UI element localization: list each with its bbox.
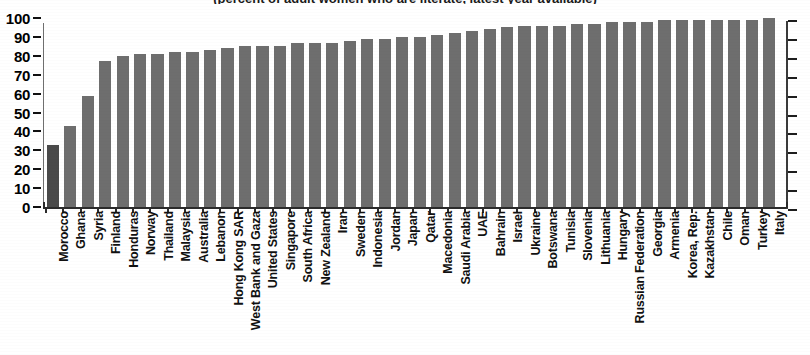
right-axis-tick xyxy=(788,115,797,117)
bar xyxy=(414,37,426,207)
y-tick-mark xyxy=(33,112,41,114)
bar xyxy=(763,18,775,207)
bar xyxy=(466,31,478,207)
bar xyxy=(693,20,705,207)
y-tick-label: 40 xyxy=(14,124,30,139)
x-tick-label: Singapore xyxy=(285,211,298,270)
bar xyxy=(291,43,303,207)
bar xyxy=(501,27,513,207)
y-axis-labels: 0102030405060708090100 xyxy=(0,18,30,207)
bar xyxy=(676,20,688,207)
y-tick-label: 30 xyxy=(14,143,30,158)
y-tick-label: 20 xyxy=(14,162,30,177)
x-tick-label: Iran xyxy=(337,211,350,233)
x-tick-label: Macedonia xyxy=(442,211,455,274)
right-axis-tick xyxy=(788,58,797,60)
x-tick-label: Morocco xyxy=(58,211,71,262)
bar xyxy=(151,54,163,207)
bar xyxy=(641,22,653,207)
bar xyxy=(361,39,373,207)
bar xyxy=(99,61,111,207)
right-axis-ticks xyxy=(779,18,793,210)
bar xyxy=(186,52,198,207)
x-tick-label: Ukraine xyxy=(530,211,543,255)
bar xyxy=(431,35,443,207)
y-tick-mark xyxy=(33,187,41,189)
x-axis-category-labels: MoroccoGhanaSyriaFinlandHondurasNorwayTh… xyxy=(44,211,784,355)
right-axis-tick xyxy=(788,133,797,135)
x-tick-label: Italy xyxy=(774,211,787,235)
x-tick-label: Ghana xyxy=(75,211,88,249)
right-axis-tick xyxy=(788,190,797,192)
x-tick-label: Malaysia xyxy=(180,211,193,262)
plot-area xyxy=(44,18,778,207)
x-tick-label: Bahrain xyxy=(495,211,508,256)
x-tick-label: Armenia xyxy=(669,211,682,260)
x-tick-label: Syria xyxy=(93,211,106,241)
right-axis-tick xyxy=(788,152,797,154)
x-tick-label: Finland xyxy=(110,211,123,254)
x-tick-label: Hungary xyxy=(617,211,630,260)
right-axis-tick xyxy=(788,171,797,173)
x-tick-label: Honduras xyxy=(128,211,141,268)
x-tick-label: South Africa xyxy=(302,211,315,282)
x-tick-label: Hong Kong SAR xyxy=(233,211,246,306)
bar xyxy=(169,52,181,207)
x-tick-label: Qatar xyxy=(425,211,438,243)
x-tick-label: New Zealand xyxy=(320,211,333,285)
x-tick-label: Lithuania xyxy=(600,211,613,265)
x-tick-label: Chile xyxy=(722,211,735,241)
right-axis-tick xyxy=(788,209,797,211)
x-tick-label: Jordan xyxy=(390,211,403,251)
bar xyxy=(518,26,530,207)
axis-end-foot xyxy=(43,202,45,208)
y-tick-mark xyxy=(33,55,41,57)
y-tick-mark xyxy=(33,206,41,208)
y-tick-label: 100 xyxy=(6,11,30,26)
x-tick-label: Slovenia xyxy=(582,211,595,261)
bar xyxy=(239,46,251,207)
y-tick-label: 50 xyxy=(14,105,30,120)
y-tick-mark xyxy=(33,149,41,151)
y-axis-ticks xyxy=(33,18,43,207)
bar xyxy=(728,20,740,207)
x-tick-label: Botswana xyxy=(547,211,560,268)
y-tick-mark xyxy=(33,93,41,95)
bar xyxy=(64,126,76,207)
x-tick-label: Turkey xyxy=(757,211,770,250)
y-tick-mark xyxy=(33,36,41,38)
bar xyxy=(274,46,286,207)
bar xyxy=(571,24,583,207)
right-axis-tick xyxy=(788,39,797,41)
y-tick-label: 0 xyxy=(22,200,30,215)
right-axis-tick xyxy=(788,77,797,79)
y-tick-mark xyxy=(33,17,41,19)
bar xyxy=(117,56,129,207)
y-tick-mark xyxy=(33,74,41,76)
bar xyxy=(711,20,723,207)
bar xyxy=(449,33,461,207)
y-tick-label: 70 xyxy=(14,67,30,82)
bar xyxy=(309,43,321,207)
bar xyxy=(606,22,618,207)
x-axis-baseline xyxy=(43,207,788,209)
x-tick-label: Russian Federation xyxy=(634,211,647,323)
x-tick-label: Georgia xyxy=(652,211,665,257)
bar xyxy=(326,43,338,207)
bar xyxy=(588,24,600,207)
x-tick-label: Thailand xyxy=(163,211,176,261)
bar xyxy=(221,48,233,207)
x-tick-label: Tunisia xyxy=(565,211,578,252)
x-tick-label: Kazakhstan xyxy=(704,211,717,278)
bar xyxy=(344,41,356,207)
y-tick-label: 60 xyxy=(14,86,30,101)
x-tick-label: Israel xyxy=(512,211,525,242)
bar xyxy=(82,96,94,208)
y-tick-label: 90 xyxy=(14,29,30,44)
bar xyxy=(47,145,59,207)
x-tick-label: UAE xyxy=(477,211,490,237)
bar xyxy=(484,29,496,207)
x-tick-label: Korea, Rep. xyxy=(687,211,700,278)
bar-chart: (percent of adult women who are literate… xyxy=(0,0,810,355)
x-tick-label: United States xyxy=(267,211,280,288)
